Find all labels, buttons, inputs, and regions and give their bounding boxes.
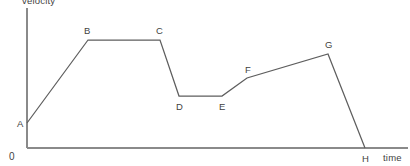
point-label-f: F: [245, 64, 251, 75]
velocity-time-chart: ABCDEFGH velocity time 0: [0, 0, 410, 166]
origin-label: 0: [9, 151, 15, 162]
point-label-a: A: [17, 118, 24, 129]
point-label-e: E: [219, 101, 226, 112]
velocity-curve: [27, 40, 365, 148]
chart-canvas: ABCDEFGH velocity time 0: [0, 0, 410, 166]
point-label-d: D: [176, 101, 183, 112]
x-axis-label: time: [383, 152, 402, 163]
point-label-c: C: [156, 25, 163, 36]
point-labels-group: ABCDEFGH: [17, 25, 369, 164]
point-label-h: H: [362, 153, 369, 164]
point-label-b: B: [84, 25, 91, 36]
point-label-g: G: [325, 39, 333, 50]
series-group: [27, 40, 365, 148]
y-axis-label: velocity: [22, 0, 55, 6]
